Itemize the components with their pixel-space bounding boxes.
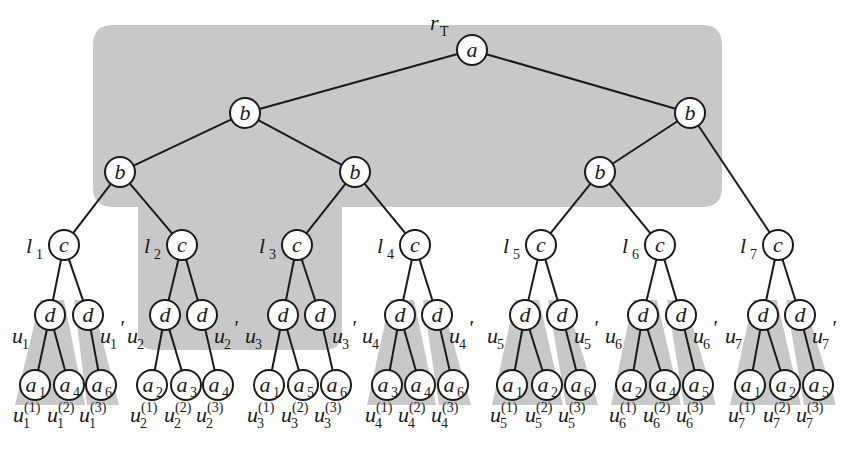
node-label: d	[197, 302, 209, 327]
svg-text:2: 2	[174, 416, 181, 431]
u-label: u4	[362, 323, 379, 352]
node-label: c	[177, 232, 187, 257]
svg-text:2: 2	[137, 337, 144, 352]
u-superscript-label: u2(2)	[164, 400, 192, 431]
node-label: a	[143, 372, 154, 397]
node-label: a	[809, 372, 820, 397]
svg-text:3: 3	[342, 337, 349, 352]
u-superscript-label: u1(1)	[13, 400, 41, 431]
leaf-node: a3	[171, 370, 201, 400]
svg-text:7: 7	[738, 416, 745, 431]
svg-text:3: 3	[324, 416, 331, 431]
leaf-node: a4	[54, 370, 84, 400]
node-label: a	[741, 372, 752, 397]
tree-edge	[69, 259, 83, 301]
svg-text:(2): (2)	[774, 400, 791, 416]
node-label: a	[260, 372, 271, 397]
svg-text:(3): (3)	[325, 400, 342, 416]
node-label: a	[538, 372, 549, 397]
node-c: c	[526, 230, 556, 260]
node-subscript: 1	[39, 385, 46, 400]
node-subscript: 4	[669, 385, 676, 400]
node-b-level1: b	[675, 98, 705, 128]
u-superscript-label: u4(2)	[398, 400, 426, 431]
node-label: b	[350, 159, 361, 184]
svg-text:': '	[593, 315, 598, 340]
node-subscript: 4	[73, 385, 80, 400]
node-d: d	[422, 300, 452, 330]
node-label: a	[689, 372, 700, 397]
node-label: a	[177, 372, 188, 397]
svg-text:(1): (1)	[501, 400, 518, 416]
node-d: d	[73, 300, 103, 330]
node-subscript: 5	[702, 385, 709, 400]
leaf-node: a6	[321, 370, 351, 400]
svg-text:l: l	[503, 233, 509, 258]
svg-text:5: 5	[497, 337, 504, 352]
node-subscript: 6	[584, 385, 591, 400]
l-label: l7	[740, 233, 757, 262]
svg-text:(2): (2)	[58, 400, 75, 416]
l-label: l5	[503, 233, 520, 262]
svg-text:(3): (3)	[207, 400, 224, 416]
svg-text:4: 4	[372, 337, 379, 352]
l-label: l6	[622, 233, 639, 262]
svg-text:(2): (2)	[654, 400, 671, 416]
u-label: u6	[605, 323, 622, 352]
u-prime-label: u1'	[100, 315, 124, 352]
svg-text:1: 1	[89, 416, 96, 431]
node-d: d	[187, 300, 217, 330]
node-d: d	[785, 300, 815, 330]
svg-text:l: l	[26, 233, 32, 258]
root-label: rT	[430, 10, 449, 39]
svg-text:7: 7	[773, 416, 780, 431]
u-superscript-label: u1(3)	[79, 400, 107, 431]
node-label: d	[45, 302, 57, 327]
leaf-node: a2	[532, 370, 562, 400]
svg-text:(1): (1)	[258, 400, 275, 416]
tree-edge	[53, 260, 61, 301]
u-superscript-label: u4(1)	[365, 400, 393, 431]
svg-text:5: 5	[568, 416, 575, 431]
u-superscript-label: u5(3)	[558, 400, 586, 431]
u-superscript-label: u7(1)	[728, 400, 756, 431]
node-label: a	[571, 372, 582, 397]
u-prime-label: u5'	[574, 315, 598, 352]
node-label: a	[776, 372, 787, 397]
node-label: d	[676, 302, 688, 327]
node-c: c	[763, 230, 793, 260]
leaf-node: a1	[20, 370, 50, 400]
node-b-level2: b	[585, 157, 615, 187]
node-d: d	[268, 300, 298, 330]
node-b-level2: b	[105, 157, 135, 187]
node-d: d	[510, 300, 540, 330]
svg-text:': '	[351, 315, 356, 340]
leaf-node: a6	[438, 370, 468, 400]
node-subscript: 3	[190, 385, 197, 400]
node-label: b	[685, 100, 696, 125]
node-label: b	[115, 159, 126, 184]
tree-edge	[664, 259, 676, 300]
node-b-level2: b	[340, 157, 370, 187]
svg-text:3: 3	[255, 337, 262, 352]
node-label: c	[292, 232, 302, 257]
node-label: a	[60, 372, 71, 397]
tree-edge	[528, 260, 537, 301]
node-label: c	[773, 232, 783, 257]
svg-text:6: 6	[653, 416, 660, 431]
node-d: d	[666, 300, 696, 330]
node-label: a	[294, 372, 305, 397]
svg-text:1: 1	[110, 337, 117, 352]
svg-text:(2): (2)	[292, 400, 309, 416]
node-label: d	[638, 302, 650, 327]
node-label: d	[160, 302, 172, 327]
node-label: a	[411, 372, 422, 397]
tree-edge	[403, 260, 412, 301]
leaf-node: a4	[203, 370, 233, 400]
svg-text:': '	[119, 315, 124, 340]
svg-text:': '	[712, 315, 717, 340]
l-label: l1	[26, 233, 43, 262]
node-label: d	[758, 302, 770, 327]
node-subscript: 2	[789, 385, 796, 400]
svg-text:(2): (2)	[409, 400, 426, 416]
